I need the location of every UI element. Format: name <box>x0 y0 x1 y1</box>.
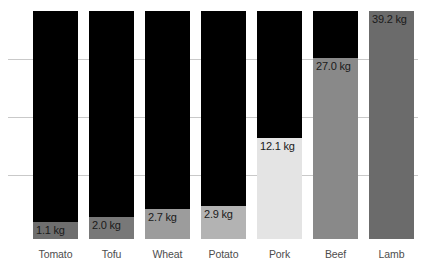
bar-value-label: 39.2 kg <box>372 13 407 26</box>
bar-group[interactable]: 2.7 kgWheat <box>145 0 190 266</box>
bar-segment-remainder <box>89 11 134 217</box>
plot-area: 1.1 kgTomato2.0 kgTofu2.7 kgWheat2.9 kgP… <box>0 0 426 266</box>
bar-group[interactable]: 1.1 kgTomato <box>33 0 78 266</box>
bar-segment-value: 12.1 kg <box>257 138 302 239</box>
bar-segment-remainder <box>257 11 302 138</box>
bar-segment-remainder <box>313 11 358 58</box>
category-label-pork: Pork <box>251 248 308 261</box>
bar-segment-remainder <box>33 11 78 222</box>
bar[interactable]: 2.7 kg <box>145 11 190 239</box>
bar-value-label: 2.9 kg <box>204 208 233 221</box>
bar-value-label: 2.0 kg <box>92 219 121 232</box>
category-label-wheat: Wheat <box>139 248 196 261</box>
category-label-beef: Beef <box>307 248 364 261</box>
bar-group[interactable]: 39.2 kgLamb <box>369 0 414 266</box>
bar-segment-value: 2.7 kg <box>145 209 190 239</box>
category-label-tomato: Tomato <box>27 248 84 261</box>
category-label-lamb: Lamb <box>363 248 420 261</box>
bar-segment-value: 2.0 kg <box>89 217 134 239</box>
bar-group[interactable]: 2.0 kgTofu <box>89 0 134 266</box>
bar-value-label: 12.1 kg <box>260 140 295 153</box>
bar-group[interactable]: 12.1 kgPork <box>257 0 302 266</box>
bar-value-label: 2.7 kg <box>148 211 177 224</box>
bar-chart: 1.1 kgTomato2.0 kgTofu2.7 kgWheat2.9 kgP… <box>0 0 426 266</box>
bar-segment-value: 2.9 kg <box>201 206 246 239</box>
category-label-tofu: Tofu <box>83 248 140 261</box>
category-label-potato: Potato <box>195 248 252 261</box>
bar[interactable]: 1.1 kg <box>33 11 78 239</box>
bar-segment-value: 1.1 kg <box>33 222 78 239</box>
bar-value-label: 1.1 kg <box>36 224 65 237</box>
bar-group[interactable]: 27.0 kgBeef <box>313 0 358 266</box>
bar-segment-value: 39.2 kg <box>369 11 414 239</box>
bar-segment-remainder <box>201 11 246 206</box>
bar-group[interactable]: 2.9 kgPotato <box>201 0 246 266</box>
bar[interactable]: 2.0 kg <box>89 11 134 239</box>
bar[interactable]: 27.0 kg <box>313 11 358 239</box>
bar-value-label: 27.0 kg <box>316 60 351 73</box>
bar[interactable]: 39.2 kg <box>369 11 414 239</box>
bar-segment-remainder <box>145 11 190 209</box>
bar[interactable]: 12.1 kg <box>257 11 302 239</box>
bar-segment-value: 27.0 kg <box>313 58 358 239</box>
bar[interactable]: 2.9 kg <box>201 11 246 239</box>
